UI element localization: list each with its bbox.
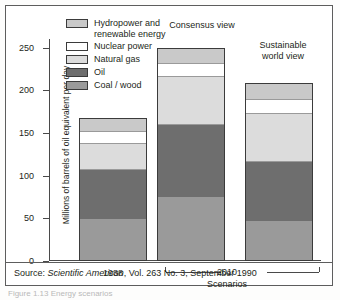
- legend-label: Natural gas: [94, 54, 140, 65]
- bar-title-sustainable-line2: world view: [262, 51, 304, 61]
- legend-swatch: [66, 81, 88, 90]
- legend-item: Oil: [66, 67, 166, 80]
- bar-segment: [158, 77, 224, 124]
- caption-cut-off: Figure 1.13 Energy scenarios: [8, 289, 113, 298]
- legend-label: Coal / wood: [94, 80, 142, 91]
- legend-item: Natural gas: [66, 54, 166, 67]
- bar-segment: [158, 198, 224, 260]
- legend-item: Nuclear power: [66, 41, 166, 54]
- bar-segment: [246, 84, 312, 101]
- bar-title-sustainable-line1: Sustainable: [259, 40, 306, 50]
- legend-swatch: [66, 55, 88, 64]
- bar-segment: [80, 132, 146, 144]
- y-tick-label: 100: [19, 171, 34, 181]
- source-note: Source: Scientific American, Vol. 263 No…: [14, 268, 257, 278]
- y-tick-label: 50: [24, 213, 34, 223]
- bar-title-consensus: Consensus view: [157, 20, 247, 31]
- bar-segment: [158, 49, 224, 64]
- source-journal: Scientific American: [48, 268, 124, 278]
- figure-container: Millions of barrels of oil equivalent pe…: [0, 0, 340, 300]
- legend-label: Hydropower and renewable energy: [94, 18, 166, 40]
- legend-swatch: [66, 68, 88, 77]
- source-prefix: Source:: [14, 268, 48, 278]
- source-divider: [6, 262, 332, 263]
- legend-swatch: [66, 42, 88, 51]
- bar-title-sustainable: Sustainableworld view: [245, 40, 321, 61]
- bar-segment: [246, 162, 312, 222]
- x-axis-label: Scenarios: [194, 279, 260, 289]
- y-tick-label: 150: [19, 128, 34, 138]
- bar-segment: [80, 220, 146, 260]
- bar-segment: [80, 144, 146, 170]
- y-tick-label: 250: [19, 43, 34, 53]
- bar-segment: [80, 119, 146, 132]
- bar-segment: [246, 100, 312, 114]
- legend: Hydropower and renewable energyNuclear p…: [66, 18, 166, 93]
- bar-segment: [246, 222, 312, 260]
- bar-1988: [79, 118, 147, 261]
- legend-swatch: [66, 19, 88, 28]
- bar-segment: [246, 114, 312, 162]
- legend-label: Oil: [94, 67, 105, 78]
- bar-consensus-view: [157, 48, 225, 261]
- bar-sustainable-world-view: [245, 83, 313, 261]
- bar-segment: [158, 125, 224, 199]
- legend-item: Hydropower and renewable energy: [66, 18, 166, 41]
- legend-item: Coal / wood: [66, 80, 166, 93]
- bar-segment: [158, 64, 224, 78]
- source-rest: , Vol. 263 No. 3, September 1990: [124, 268, 257, 278]
- bar-segment: [80, 170, 146, 221]
- y-tick-label: 0: [29, 256, 34, 266]
- legend-label: Nuclear power: [94, 41, 152, 52]
- y-tick-label: 200: [19, 85, 34, 95]
